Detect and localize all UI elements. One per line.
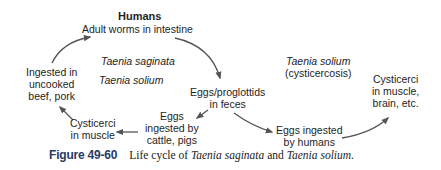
caption-species-1: Taenia saginata xyxy=(191,149,264,161)
node-humans-subtitle: Adult worms in intestine xyxy=(82,23,193,35)
node-ingested-uncooked: Ingested in uncooked beef, pork xyxy=(26,66,77,102)
figure-caption: Figure 49-60Life cycle of Taenia saginat… xyxy=(49,145,354,163)
node-cysticerci-muscle: Cysticerci in muscle xyxy=(70,117,116,141)
node-solium-cysticercosis: Taenia solium (cysticercosis) xyxy=(285,55,352,79)
node-ingested-line1: Ingested in xyxy=(26,66,77,78)
caption-species-2: Taenia solium xyxy=(287,149,351,161)
node-eggs-feces-line2: in feces xyxy=(190,98,265,110)
node-cysticerci-brain-line2: in muscle, xyxy=(372,85,419,97)
node-eggs-feces: Eggs/proglottids in feces xyxy=(190,86,265,110)
species-label-saginata: Taenia saginata xyxy=(101,55,175,67)
arrow-to-feces xyxy=(175,38,220,78)
node-eggs-cattle: Eggs ingested by cattle, pigs xyxy=(145,110,199,146)
node-cysticerci-muscle-line1: Cysticerci xyxy=(70,117,116,129)
node-eggs-cattle-line1: Eggs xyxy=(145,110,199,122)
node-solium-line1: Taenia solium xyxy=(285,55,352,67)
arrow-to-eggs-humans xyxy=(234,113,272,132)
node-ingested-line2: uncooked xyxy=(26,78,77,90)
node-eggs-feces-line1: Eggs/proglottids xyxy=(190,86,265,98)
arrow-to-humans xyxy=(52,37,90,63)
species-label-solium: Taenia solium xyxy=(99,74,163,86)
node-cysticerci-muscle-line2: in muscle xyxy=(70,129,116,141)
node-cysticerci-brain: Cysticerci in muscle, brain, etc. xyxy=(372,73,419,109)
node-ingested-line3: beef, pork xyxy=(26,90,77,102)
node-eggs-cattle-line2: ingested by xyxy=(145,122,199,134)
caption-conjunction: and xyxy=(264,149,286,161)
figure-caption-text: Life cycle of Taenia saginata and Taenia… xyxy=(129,149,354,161)
figure-number: Figure 49-60 xyxy=(49,148,117,162)
node-eggs-humans-line1: Eggs ingested xyxy=(276,124,343,136)
arrow-to-brain xyxy=(342,118,388,138)
node-cysticerci-brain-line1: Cysticerci xyxy=(372,73,419,85)
caption-prefix: Life cycle of xyxy=(129,149,191,161)
node-cysticerci-brain-line3: brain, etc. xyxy=(372,97,419,109)
node-solium-line2: (cysticercosis) xyxy=(285,67,352,79)
caption-suffix: . xyxy=(351,149,354,161)
node-humans-title: Humans xyxy=(118,10,161,22)
